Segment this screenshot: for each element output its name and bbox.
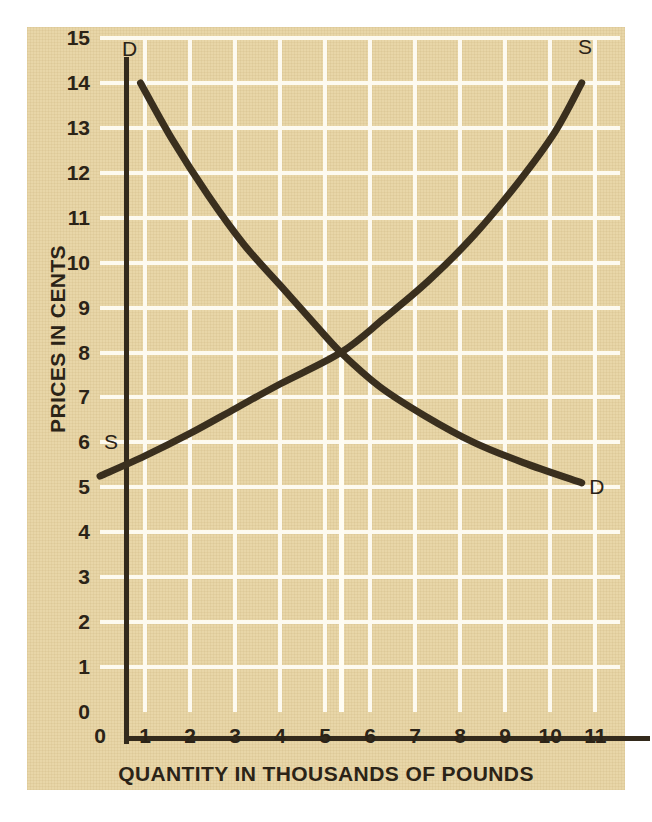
x-tick-label: 3 (215, 725, 255, 746)
gridline-horizontal (100, 440, 620, 444)
x-tick-label: 8 (440, 725, 480, 746)
gridline-vertical (458, 38, 462, 712)
gridline-horizontal (100, 351, 620, 355)
y-axis-title: PRICES IN CENTS (46, 224, 70, 454)
y-tick-label: 3 (50, 566, 90, 587)
x-tick-label: 6 (350, 725, 390, 746)
gridline-vertical (278, 38, 282, 712)
y-tick-label: 4 (50, 521, 90, 542)
supply-bottom-label: S (104, 431, 118, 452)
gridline-vertical (323, 38, 327, 712)
y-tick-label: 0 (50, 701, 90, 722)
y-tick-label: 5 (50, 476, 90, 497)
gridline-vertical (233, 38, 237, 712)
plot-area (100, 38, 620, 712)
chart-paper-panel: 0123456789101112131415 01234567891011 PR… (27, 27, 625, 790)
x-tick-label: 7 (395, 725, 435, 746)
gridline-vertical (188, 38, 192, 712)
x-tick-label: 0 (80, 725, 120, 746)
gridline-horizontal (100, 485, 620, 489)
y-tick-label: 13 (50, 117, 90, 138)
x-tick-label: 5 (305, 725, 345, 746)
y-tick-label: 12 (50, 162, 90, 183)
x-tick-label: 2 (170, 725, 210, 746)
demand-top-label: D (122, 38, 137, 59)
gridline-horizontal (100, 665, 620, 669)
gridline-horizontal (100, 36, 620, 40)
gridline-horizontal (100, 216, 620, 220)
gridline-horizontal (100, 620, 620, 624)
supply-demand-chart-figure: 0123456789101112131415 01234567891011 PR… (0, 0, 652, 822)
demand-bottom-label: D (589, 476, 604, 497)
supply-top-label: S (578, 36, 592, 57)
gridline-horizontal (100, 126, 620, 130)
gridline-vertical (413, 38, 417, 712)
x-tick-label: 4 (260, 725, 300, 746)
y-tick-label: 1 (50, 656, 90, 677)
gridline-vertical (548, 38, 552, 712)
gridline-vertical (503, 38, 507, 712)
gridline-horizontal (100, 306, 620, 310)
y-tick-label: 15 (50, 27, 90, 48)
gridline-vertical (593, 38, 597, 712)
y-axis-line (124, 57, 129, 744)
gridline-vertical (143, 38, 147, 712)
gridline-horizontal (100, 575, 620, 579)
gridline-vertical (368, 38, 372, 712)
gridline-horizontal (100, 81, 620, 85)
gridline-horizontal (100, 171, 620, 175)
gridline-horizontal (100, 261, 620, 265)
y-tick-label: 14 (50, 72, 90, 93)
x-axis-title: QUANTITY IN THOUSANDS OF POUNDS (0, 762, 652, 786)
x-tick-label: 10 (530, 725, 570, 746)
gridline-horizontal (100, 395, 620, 399)
x-tick-label: 11 (575, 725, 615, 746)
gridline-horizontal (100, 530, 620, 534)
x-tick-label: 9 (485, 725, 525, 746)
equilibrium-guide-line (339, 353, 344, 712)
y-tick-label: 2 (50, 611, 90, 632)
x-tick-label: 1 (125, 725, 165, 746)
